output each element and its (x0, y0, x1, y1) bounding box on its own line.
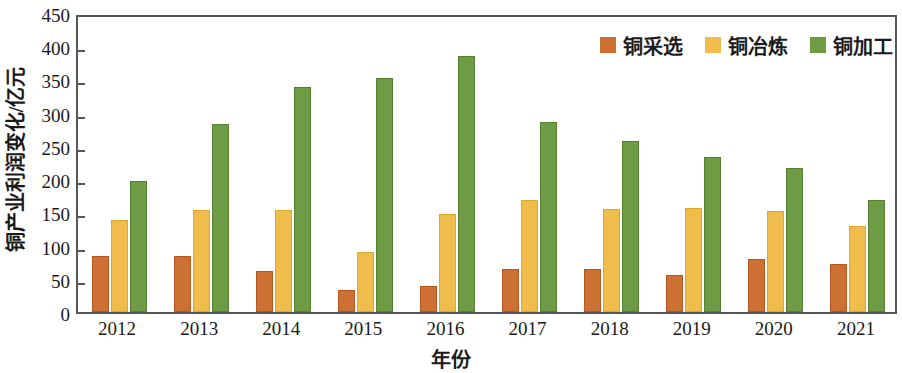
bar-group (817, 17, 899, 312)
x-axis-tick-label: 2014 (262, 318, 300, 340)
y-axis-tick-label: 200 (42, 172, 71, 191)
bar (420, 286, 437, 312)
bar-group (160, 17, 242, 312)
chart-legend: 铜采选铜冶炼铜加工 (600, 30, 893, 60)
bar-group (735, 17, 817, 312)
y-axis-tick-label: 100 (42, 238, 71, 257)
bar (212, 124, 229, 312)
x-axis-tick-labels: 2012201320142015201620172018201920202021 (76, 318, 897, 346)
bar (868, 200, 885, 312)
x-axis-tick-label: 2021 (837, 318, 875, 340)
bar (603, 209, 620, 312)
y-axis-tick-label: 0 (61, 305, 71, 324)
x-axis-tick-label: 2016 (426, 318, 464, 340)
y-axis-tick-label: 400 (42, 39, 71, 58)
bar-group (242, 17, 324, 312)
legend-label: 铜冶炼 (728, 31, 788, 60)
bar (376, 78, 393, 312)
bar (704, 157, 721, 312)
bar (584, 269, 601, 312)
y-axis-tick-label: 300 (42, 105, 71, 124)
bar (685, 208, 702, 312)
x-axis-title: 年份 (0, 344, 902, 373)
bar (338, 290, 355, 312)
bar-group (571, 17, 653, 312)
x-axis-tick-label: 2018 (591, 318, 629, 340)
x-axis-tick-label: 2020 (755, 318, 793, 340)
x-axis-tick-label: 2019 (673, 318, 711, 340)
y-axis-tick-labels: 050100150200250300350400450 (26, 0, 74, 330)
legend-item: 铜加工 (810, 31, 893, 60)
bar (849, 226, 866, 312)
bar (830, 264, 847, 313)
bar (256, 271, 273, 312)
bar (767, 211, 784, 312)
legend-label: 铜加工 (833, 31, 893, 60)
legend-label: 铜采选 (623, 31, 683, 60)
bar (458, 56, 475, 312)
y-axis-tick-label: 450 (42, 6, 71, 25)
bar-group (489, 17, 571, 312)
bar (130, 181, 147, 312)
bar (748, 259, 765, 312)
bar (622, 141, 639, 312)
legend-item: 铜冶炼 (705, 31, 788, 60)
bar (439, 214, 456, 312)
bar (521, 200, 538, 312)
bar (174, 256, 191, 312)
legend-item: 铜采选 (600, 31, 683, 60)
bar (357, 252, 374, 312)
bar (502, 269, 519, 312)
x-axis-tick-label: 2017 (509, 318, 547, 340)
bar-group (653, 17, 735, 312)
bar-series-container (78, 17, 895, 312)
y-axis-tick-label: 50 (51, 271, 70, 290)
bar (666, 275, 683, 312)
bar (294, 87, 311, 312)
bar (193, 210, 210, 312)
bar (275, 210, 292, 312)
bar (786, 168, 803, 312)
bar (540, 122, 557, 312)
x-axis-tick-label: 2013 (180, 318, 218, 340)
bar (111, 220, 128, 312)
x-axis-tick-label: 2012 (98, 318, 136, 340)
legend-swatch-icon (705, 37, 721, 53)
bar-group (406, 17, 488, 312)
x-axis-tick-label: 2015 (344, 318, 382, 340)
legend-swatch-icon (600, 37, 616, 53)
y-axis-tick-label: 150 (42, 205, 71, 224)
bar (92, 256, 109, 312)
legend-swatch-icon (810, 37, 826, 53)
bar-group (324, 17, 406, 312)
y-axis-tick-label: 250 (42, 138, 71, 157)
y-axis-tick-label: 350 (42, 72, 71, 91)
bar-group (78, 17, 160, 312)
